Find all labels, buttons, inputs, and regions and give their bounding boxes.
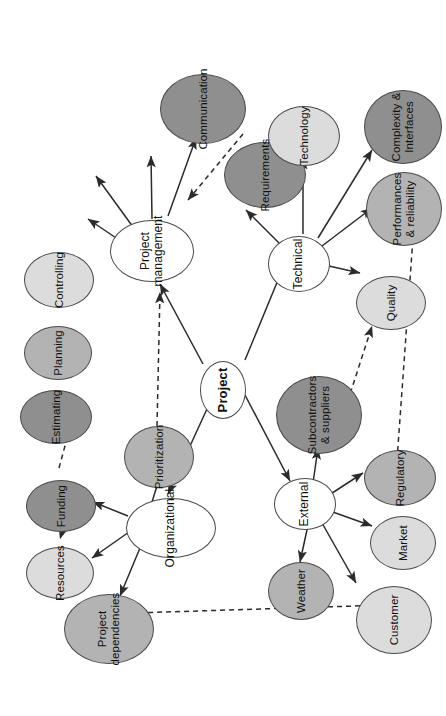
node-estimating[interactable]: Estimating	[20, 390, 92, 444]
node-funding[interactable]: Funding	[26, 480, 96, 532]
node-label: Quality	[385, 285, 398, 322]
node-resources[interactable]: Resources	[26, 547, 94, 599]
node-label: Controlling	[53, 252, 66, 308]
node-controlling[interactable]: Controlling	[24, 252, 94, 308]
node-project[interactable]: Project	[200, 361, 246, 419]
node-organizational[interactable]: Organizational	[126, 498, 216, 558]
node-label: Performances & reliability	[391, 173, 417, 246]
node-label: Project dependencies	[96, 593, 122, 666]
node-label: Technology	[298, 106, 311, 165]
node-label: Technical	[292, 239, 305, 290]
node-label: Resources	[54, 545, 67, 601]
node-weather[interactable]: Weather	[268, 562, 334, 620]
node-label: Organizational	[164, 489, 177, 568]
node-prioritization[interactable]: Prioritization	[124, 426, 194, 488]
node-subcontractors[interactable]: Subcontractors & suppliers	[276, 376, 362, 454]
node-project-management[interactable]: Project management	[110, 220, 194, 282]
node-label: Weather	[295, 569, 308, 613]
node-label: Requirements	[259, 139, 272, 212]
node-label: Estimating	[50, 390, 63, 445]
node-quality[interactable]: Quality	[356, 276, 426, 330]
node-complexity[interactable]: Complexity & Interfaces	[364, 90, 442, 164]
node-label: Market	[397, 525, 410, 561]
node-external[interactable]: External	[274, 478, 336, 530]
node-market[interactable]: Market	[370, 516, 436, 570]
node-label: Regulatory	[394, 450, 407, 507]
node-label: Planning	[52, 330, 65, 376]
node-project-dependencies[interactable]: Project dependencies	[64, 594, 154, 664]
node-label: Subcontractors & suppliers	[306, 376, 332, 455]
node-performances[interactable]: Performances & reliability	[366, 172, 442, 246]
node-technical[interactable]: Technical	[268, 236, 330, 292]
node-label: External	[298, 482, 311, 527]
node-technology[interactable]: Technology	[268, 106, 340, 166]
node-label: Customer	[388, 595, 401, 646]
diagram-rotated-group: Project Organizational Project managemen…	[0, 0, 446, 716]
node-customer[interactable]: Customer	[356, 586, 432, 654]
node-planning[interactable]: Planning	[24, 326, 92, 380]
node-label: Complexity & Interfaces	[390, 91, 416, 163]
node-label: Communication	[197, 68, 210, 149]
node-label: Prioritization	[153, 425, 166, 490]
node-regulatory[interactable]: Regulatory	[364, 450, 436, 506]
node-label: Project management	[139, 215, 166, 286]
node-label: Project	[216, 368, 231, 413]
figure-canvas: Project Organizational Project managemen…	[0, 0, 446, 716]
node-label: Funding	[55, 485, 68, 527]
node-communication[interactable]: Communication	[160, 74, 246, 144]
